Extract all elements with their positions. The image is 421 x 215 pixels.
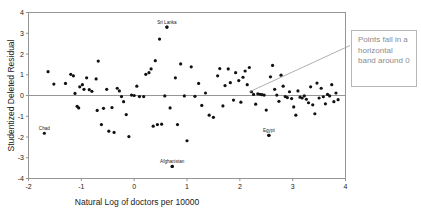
x-tick-label: 4 — [344, 183, 348, 190]
data-point — [88, 88, 91, 91]
data-point — [158, 37, 161, 40]
data-point — [72, 74, 75, 77]
data-point — [263, 93, 266, 96]
data-point — [78, 85, 81, 88]
data-point — [328, 94, 331, 97]
data-point — [223, 84, 226, 87]
data-point — [275, 93, 278, 96]
data-point — [324, 102, 327, 105]
data-point — [105, 88, 108, 91]
data-point — [149, 67, 152, 70]
x-tick-label: 1 — [185, 183, 189, 190]
data-point — [118, 89, 121, 92]
data-point — [96, 109, 99, 112]
data-point — [107, 130, 110, 133]
data-point — [332, 100, 335, 103]
data-point — [193, 95, 196, 98]
data-point — [212, 116, 215, 119]
data-point — [322, 95, 325, 98]
y-tick-label: -1 — [18, 113, 24, 120]
data-point — [64, 82, 67, 85]
data-point — [241, 76, 244, 79]
data-point — [125, 113, 128, 116]
data-point-labeled — [165, 25, 168, 28]
point-label: Chad — [39, 126, 50, 131]
data-point — [82, 88, 85, 91]
data-point — [292, 105, 295, 108]
data-point — [116, 87, 119, 90]
data-point — [279, 74, 282, 77]
data-point — [315, 81, 318, 84]
data-point — [90, 90, 93, 93]
data-point — [290, 97, 293, 100]
annotation-leader-line — [249, 46, 350, 93]
data-point — [208, 114, 211, 117]
data-point — [52, 82, 55, 85]
data-point — [179, 62, 182, 65]
data-point — [174, 76, 177, 79]
data-point — [248, 66, 251, 69]
y-axis-title: Studentized Deleted Residual — [6, 39, 16, 151]
x-tick-label: -1 — [78, 183, 84, 190]
data-point — [85, 76, 88, 79]
data-point — [127, 135, 130, 138]
data-point — [183, 94, 186, 97]
y-tick-label: 0 — [20, 92, 24, 99]
data-point — [156, 123, 159, 126]
data-point — [135, 85, 138, 88]
y-tick-label: 2 — [20, 51, 24, 58]
data-point — [46, 70, 49, 73]
data-point — [244, 69, 247, 72]
data-point — [122, 100, 125, 103]
data-point — [232, 98, 235, 101]
y-tick-label: -4 — [18, 175, 24, 182]
y-tick-label: 4 — [20, 9, 24, 16]
data-point — [330, 83, 333, 86]
data-point — [160, 123, 163, 126]
data-point — [102, 107, 105, 110]
data-point — [337, 98, 340, 101]
data-point — [246, 83, 249, 86]
data-point — [120, 95, 123, 98]
data-point — [317, 96, 320, 99]
data-point — [305, 98, 308, 101]
data-point — [296, 89, 299, 92]
x-tick-label: 0 — [132, 183, 136, 190]
data-point — [271, 64, 274, 67]
data-point — [168, 106, 171, 109]
data-point-labeled — [171, 165, 174, 168]
data-point — [269, 75, 272, 78]
data-point — [110, 106, 113, 109]
data-point — [307, 101, 310, 104]
data-point — [252, 93, 255, 96]
data-point — [334, 91, 337, 94]
data-point-labeled — [43, 132, 46, 135]
data-point — [95, 77, 98, 80]
data-point — [154, 59, 157, 62]
data-point — [303, 94, 306, 97]
y-tick-label: 1 — [20, 71, 24, 78]
annotation-callout: Points fall in a horizontal band around … — [351, 30, 417, 87]
y-tick-label: -2 — [18, 134, 24, 141]
data-point — [218, 67, 221, 70]
data-point — [112, 131, 115, 134]
data-point — [77, 106, 80, 109]
data-point — [144, 73, 147, 76]
data-point — [229, 81, 232, 84]
data-point — [81, 83, 84, 86]
y-tick-label: 3 — [20, 30, 24, 37]
data-point — [176, 123, 179, 126]
data-point — [147, 71, 150, 74]
data-point — [204, 91, 207, 94]
data-point — [152, 125, 155, 128]
data-point — [294, 114, 297, 117]
data-point — [200, 104, 203, 107]
data-point — [239, 101, 242, 104]
point-label: Afghanistan — [160, 159, 185, 164]
data-point — [227, 67, 230, 70]
residual-scatter-figure: -2-101234-4-3-2-101234Natural Log of doc… — [0, 0, 421, 215]
data-point — [138, 95, 141, 98]
data-point — [234, 71, 237, 74]
data-point — [190, 65, 193, 68]
data-point — [311, 103, 314, 106]
